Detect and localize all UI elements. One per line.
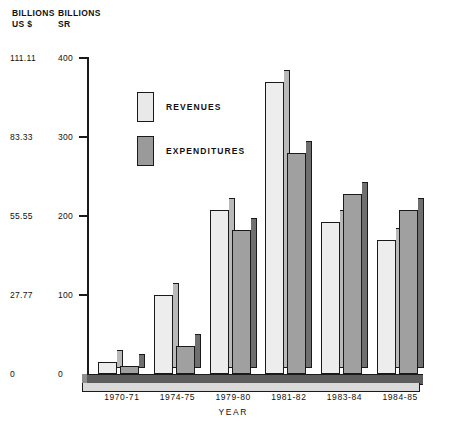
bar-chart: BILLIONSUS $ BILLIONSSR 111.1140083.3330…	[0, 0, 456, 424]
bar-face	[232, 230, 251, 374]
right-axis-header-line2: SR	[58, 19, 71, 29]
bar-expenditures-1984-85	[399, 210, 418, 374]
y-tick-label-usd-111.11: 111.11	[10, 53, 56, 63]
y-tick-label-usd-27.77: 27.77	[10, 290, 56, 300]
y-tick-400	[79, 57, 88, 59]
left-axis-header-line2: US $	[12, 19, 33, 29]
left-axis-header-line1: BILLIONS	[12, 8, 55, 18]
x-axis-label-1983-84: 1983-84	[317, 392, 373, 402]
bar-face	[154, 295, 173, 374]
bar-revenues-1981-82	[265, 82, 284, 374]
y-tick-100	[79, 294, 88, 296]
bar-revenues-1979-80	[210, 210, 229, 374]
bar-face	[120, 366, 139, 374]
bar-face	[210, 210, 229, 374]
bar-expenditures-1983-84	[343, 194, 362, 374]
bar-face	[321, 222, 340, 374]
bar-expenditures-1979-80	[232, 230, 251, 374]
right-axis-header: BILLIONSSR	[58, 8, 101, 30]
bar-face	[98, 362, 117, 374]
bar-expenditures-1981-82	[287, 153, 306, 374]
left-axis-header: BILLIONSUS $	[12, 8, 55, 30]
x-axis-label-1979-80: 1979-80	[205, 392, 261, 402]
bar-side-face	[418, 198, 424, 368]
legend-item-revenues: REVENUES	[137, 92, 222, 122]
right-axis-header-line1: BILLIONS	[58, 8, 101, 18]
legend-label-revenues: REVENUES	[166, 102, 222, 112]
legend-label-expenditures: EXPENDITURES	[166, 146, 245, 156]
bar-side-face	[306, 141, 312, 368]
bar-face	[287, 153, 306, 374]
bar-side-face	[195, 334, 201, 368]
bar-revenues-1983-84	[321, 222, 340, 374]
x-axis-title: YEAR	[205, 407, 261, 417]
x-axis-label-1974-75: 1974-75	[150, 392, 206, 402]
bar-side-face	[139, 354, 145, 368]
y-tick-label-usd-83.33: 83.33	[10, 132, 56, 142]
legend-swatch-revenues	[137, 92, 154, 122]
bar-revenues-1974-75	[154, 295, 173, 374]
bar-face	[176, 346, 195, 374]
bar-face	[377, 240, 396, 374]
bar-revenues-1984-85	[377, 240, 396, 374]
bar-expenditures-1974-75	[176, 346, 195, 374]
x-axis-label-1984-85: 1984-85	[372, 392, 428, 402]
bar-side-face	[251, 218, 257, 368]
x-axis-baseline-front	[82, 383, 420, 392]
y-tick-300	[79, 136, 88, 138]
x-axis-label-1970-71: 1970-71	[94, 392, 150, 402]
bar-face	[399, 210, 418, 374]
bar-side-face	[362, 182, 368, 368]
bar-face	[265, 82, 284, 374]
x-axis-label-1981-82: 1981-82	[261, 392, 317, 402]
legend-swatch-expenditures	[137, 136, 154, 166]
bar-face	[343, 194, 362, 374]
y-tick-200	[79, 215, 88, 217]
bar-expenditures-1970-71	[120, 366, 139, 374]
legend-item-expenditures: EXPENDITURES	[137, 136, 245, 166]
y-tick-label-usd-0: 0	[10, 369, 56, 379]
y-tick-label-usd-55.55: 55.55	[10, 211, 56, 221]
bar-revenues-1970-71	[98, 362, 117, 374]
